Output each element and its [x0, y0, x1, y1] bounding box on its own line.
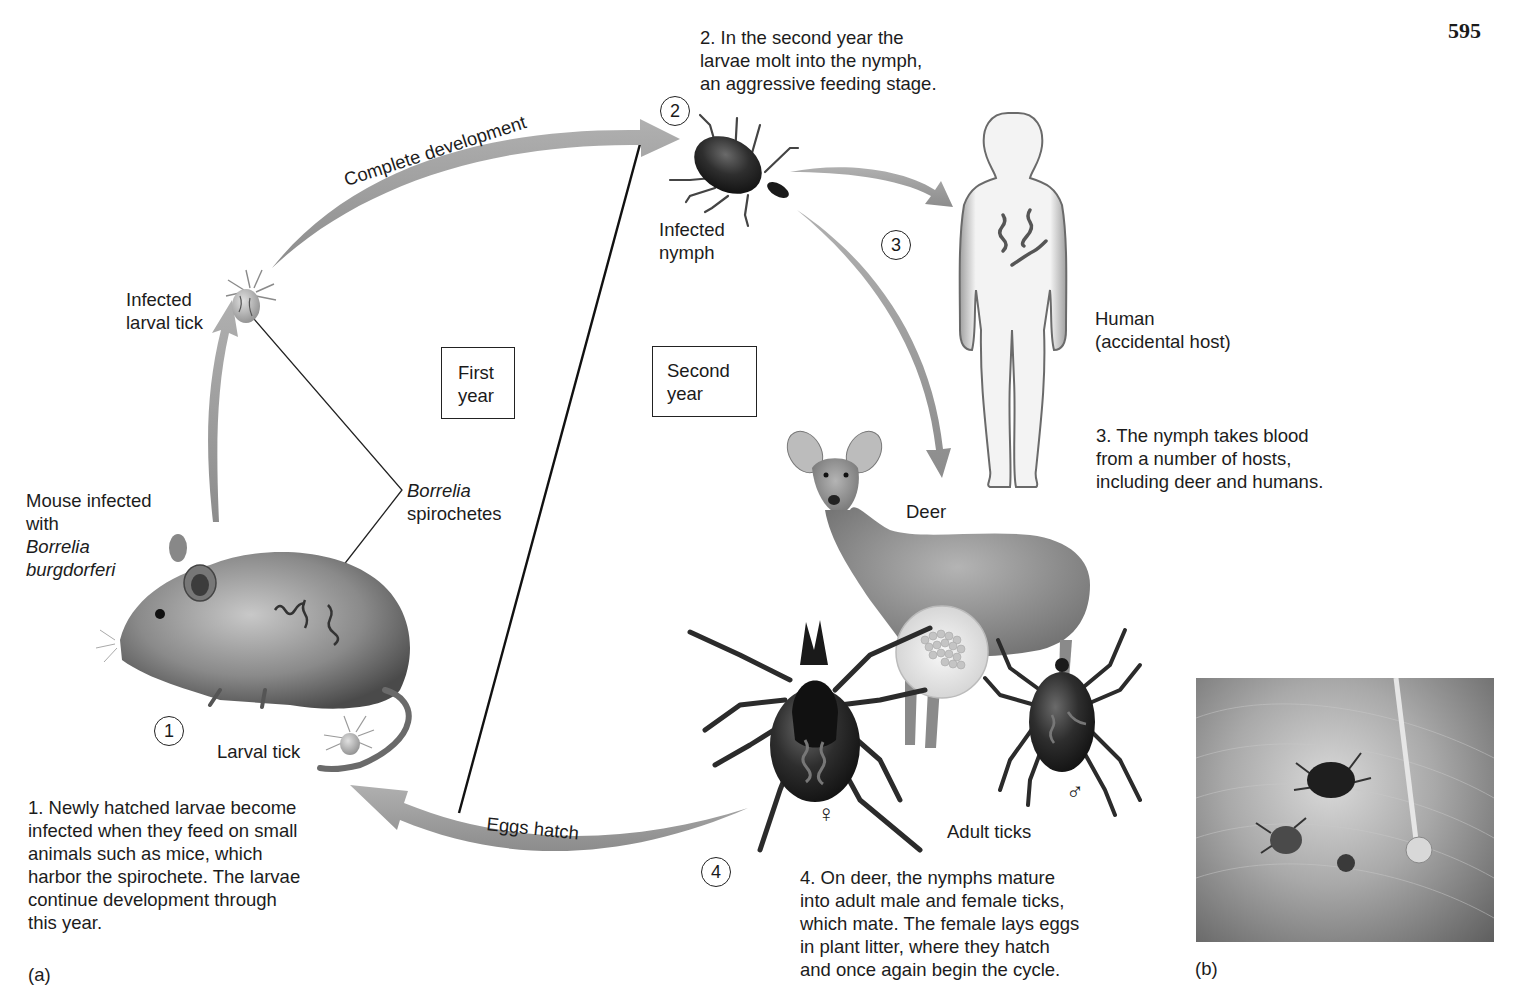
human-label: Human (accidental host)	[1095, 307, 1231, 353]
step-3-number: 3	[891, 235, 901, 256]
tick-photo-content	[1196, 678, 1494, 942]
first-year-label: year	[458, 384, 514, 407]
larval-tick-illustration	[324, 716, 374, 755]
mouse-label: Mouse infected with Borrelia burgdorferi	[26, 489, 151, 581]
step-2-line: 2. In the second year the	[700, 26, 937, 49]
step-4-line: into adult male and female ticks,	[800, 889, 1079, 912]
step-1-line: this year.	[28, 911, 300, 934]
second-year-box: Second year	[652, 346, 757, 417]
species-name: burgdorferi	[26, 558, 151, 581]
step-3-marker: 3	[881, 230, 911, 260]
step-1-number: 1	[164, 721, 174, 742]
label-line: Human	[1095, 307, 1231, 330]
step-1-description: 1. Newly hatched larvae become infected …	[28, 796, 300, 934]
step-4-description: 4. On deer, the nymphs mature into adult…	[800, 866, 1079, 981]
male-symbol-icon: ♂	[1066, 778, 1084, 806]
label-line: larval tick	[126, 311, 203, 334]
adult-ticks-label: Adult ticks	[947, 820, 1031, 843]
infected-nymph-label: Infected nymph	[659, 218, 725, 264]
step-1-line: infected when they feed on small	[28, 819, 300, 842]
step-3-description: 3. The nymph takes blood from a number o…	[1096, 424, 1323, 493]
step-1-line: animals such as mice, which	[28, 842, 300, 865]
label-line: Infected	[126, 288, 203, 311]
label-line: (accidental host)	[1095, 330, 1231, 353]
borrelia-spirochetes-label: Borrelia spirochetes	[407, 479, 502, 525]
step-1-line: harbor the spirochete. The larvae	[28, 865, 300, 888]
step-3-line: 3. The nymph takes blood	[1096, 424, 1323, 447]
step-3-line: including deer and humans.	[1096, 470, 1323, 493]
second-year-label: Second	[667, 359, 756, 382]
step-2-number: 2	[670, 101, 680, 122]
female-symbol-icon: ♀	[817, 800, 835, 828]
arrow-nymph-to-human	[790, 167, 953, 207]
larval-tick-label: Larval tick	[217, 740, 300, 763]
step-2-line: larvae molt into the nymph,	[700, 49, 937, 72]
deer-label: Deer	[906, 500, 946, 523]
year-divider-line	[459, 133, 643, 813]
step-4-marker: 4	[701, 857, 731, 887]
step-4-line: which mate. The female lays eggs	[800, 912, 1079, 935]
step-1-line: 1. Newly hatched larvae become	[28, 796, 300, 819]
step-2-line: an aggressive feeding stage.	[700, 72, 937, 95]
step-1-marker: 1	[154, 716, 184, 746]
first-year-box: First year	[441, 347, 515, 419]
step-4-number: 4	[711, 862, 721, 883]
human-illustration	[960, 113, 1067, 487]
label-line: nymph	[659, 241, 725, 264]
label-line: Mouse infected	[26, 489, 151, 512]
infected-nymph-illustration	[670, 115, 798, 226]
label-line: Infected	[659, 218, 725, 241]
second-year-label: year	[667, 382, 756, 405]
label-line: with	[26, 512, 151, 535]
tick-photo	[1196, 678, 1494, 942]
label-line: Borrelia	[407, 479, 502, 502]
step-4-line: in plant litter, where they hatch	[800, 935, 1079, 958]
first-year-label: First	[458, 361, 514, 384]
step-2-marker: 2	[660, 96, 690, 126]
species-genus: Borrelia	[26, 535, 151, 558]
infected-larval-tick-label: Infected larval tick	[126, 288, 203, 334]
panel-a-label: (a)	[28, 963, 51, 986]
step-4-line: and once again begin the cycle.	[800, 958, 1079, 981]
arrow-mouse-to-larva	[208, 300, 238, 522]
step-4-line: 4. On deer, the nymphs mature	[800, 866, 1079, 889]
step-3-line: from a number of hosts,	[1096, 447, 1323, 470]
step-2-description: 2. In the second year the larvae molt in…	[700, 26, 937, 95]
label-line: spirochetes	[407, 502, 502, 525]
step-1-line: continue development through	[28, 888, 300, 911]
panel-b-label: (b)	[1195, 957, 1218, 980]
